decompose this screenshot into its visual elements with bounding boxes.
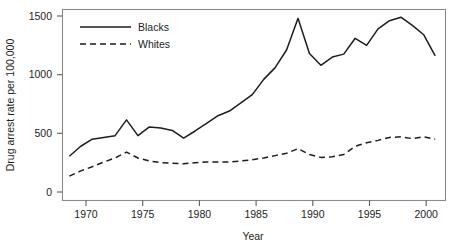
drug-arrest-rate-line-chart: 0 500 1000 1500 1970 1975 1980 1985 1990… [0,0,459,245]
y-tick-label-1500: 1500 [29,10,53,22]
y-tick-label-1000: 1000 [29,68,53,80]
y-tick-label-500: 500 [34,127,52,139]
x-tick-label-1975: 1975 [131,208,155,220]
x-tick-label-1970: 1970 [74,208,98,220]
x-tick-label-1995: 1995 [358,208,382,220]
chart-legend: Blacks Whites [80,21,170,50]
series-line-whites [69,137,435,176]
x-tick-label-1990: 1990 [301,208,325,220]
legend-label-whites: Whites [138,38,170,50]
legend-label-blacks: Blacks [138,21,169,33]
x-axis-tick-labels: 1970 1975 1980 1985 1990 1995 2000 [74,208,438,220]
y-axis-ticks [57,16,63,192]
x-axis-ticks [86,201,426,207]
series-line-blacks [69,17,435,156]
x-axis-title: Year [242,230,264,242]
x-tick-label-1985: 1985 [244,208,268,220]
x-tick-label-2000: 2000 [415,208,439,220]
x-tick-label-1980: 1980 [188,208,212,220]
chart-canvas: 0 500 1000 1500 1970 1975 1980 1985 1990… [0,0,459,245]
y-axis-title: Drug arrest rate per 100,000 [4,39,16,172]
plot-frame [63,10,446,201]
y-axis-tick-labels: 0 500 1000 1500 [29,10,53,198]
y-tick-label-0: 0 [46,186,52,198]
